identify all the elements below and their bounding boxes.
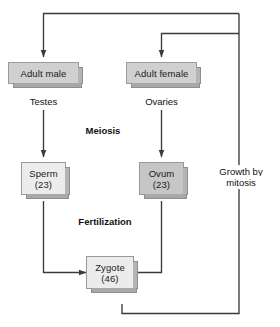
node-adult-male-label: Adult male: [21, 68, 67, 79]
node-zygote-label: Zygote: [95, 262, 125, 273]
caption-mitosis: mitosis: [208, 176, 274, 189]
node-ovum[interactable]: Ovum (23): [139, 162, 184, 195]
edge-to-adult-male: [44, 14, 240, 58]
caption-meiosis: Meiosis: [68, 125, 138, 136]
node-sperm-label: Sperm: [29, 168, 57, 179]
edge-sperm-to-zygote: [44, 201, 87, 273]
node-zygote[interactable]: Zygote (46): [86, 256, 134, 289]
caption-testes: Testes: [8, 96, 79, 107]
caption-ovaries: Ovaries: [126, 96, 197, 107]
node-ovum-count: (23): [153, 179, 170, 190]
node-sperm[interactable]: Sperm (23): [21, 162, 66, 195]
node-zygote-count: (46): [101, 273, 118, 284]
node-adult-female[interactable]: Adult female: [126, 62, 197, 84]
caption-fertilization: Fertilization: [60, 216, 150, 227]
node-sperm-count: (23): [35, 179, 52, 190]
node-adult-male[interactable]: Adult male: [8, 62, 79, 84]
node-adult-female-label: Adult female: [134, 68, 188, 79]
edge-to-adult-female: [162, 34, 240, 58]
node-ovum-label: Ovum: [149, 168, 175, 179]
life-cycle-diagram: Adult male Adult female Sperm (23) Ovum …: [0, 0, 280, 327]
